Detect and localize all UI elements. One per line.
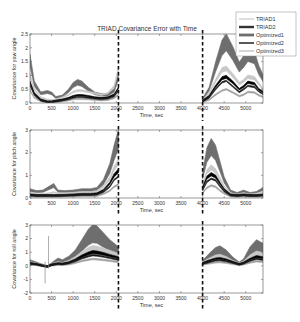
y-tick-label: 0 [25,100,28,106]
legend-label-triad1: TRIAD1 [256,16,276,22]
plot-area [30,225,263,284]
x-tick-label: 3500 [175,295,186,301]
y-tick-label: 0.5 [21,86,28,92]
x-tick-label: 2000 [111,295,122,301]
legend-label-optimized2: Optimized2 [256,40,284,46]
y-tick-label: 3 [25,127,28,133]
x-tick-label: 5000 [240,200,251,206]
x-tick-label: 2000 [111,105,122,111]
y-tick-label: 0 [25,263,28,269]
subplot-roll: 0500100015002000250030003500400045005000… [11,221,263,311]
x-tick-label: 500 [47,105,56,111]
y-tick-label: 2 [25,45,28,51]
x-axis-label: Time, sec [140,302,164,308]
x-tick-label: 1500 [89,295,100,301]
x-tick-label: 3000 [154,105,165,111]
x-tick-label: 1000 [68,105,79,111]
x-tick-label: 2500 [132,200,143,206]
y-tick-label: 1.5 [21,58,28,64]
x-tick-label: 3000 [154,295,165,301]
x-axis-label: Time, sec [140,207,164,213]
y-axis-label: Covariance for roll angle [11,229,17,289]
x-tick-label: 3500 [175,105,186,111]
y-tick-label: 1 [25,249,28,255]
y-tick-label: 2.5 [21,31,28,37]
x-tick-label: 0 [29,295,32,301]
y-tick-label: 2 [25,235,28,241]
x-tick-label: 500 [47,295,56,301]
figure: TRIAD Covariance Error with Time 0500100… [0,0,300,322]
series-band-optimized3 [203,89,263,103]
x-tick-label: 5000 [240,295,251,301]
x-tick-label: 4500 [219,295,230,301]
x-tick-label: 1000 [68,295,79,301]
y-tick-label: -2 [24,290,29,296]
plot-area [30,129,263,197]
x-tick-label: 3000 [154,200,165,206]
legend: TRIAD1TRIAD2Optimized1Optimized2Optimize… [236,12,296,56]
x-tick-label: 3500 [175,200,186,206]
x-tick-label: 500 [47,200,56,206]
x-tick-label: 2500 [132,105,143,111]
x-tick-label: 2000 [111,200,122,206]
chart-title: TRIAD Covariance Error with Time [97,25,197,32]
y-tick-label: 1 [25,72,28,78]
y-tick-label: 0 [25,195,28,201]
x-tick-label: 5000 [240,105,251,111]
y-tick-label: -1 [24,276,29,282]
y-tick-label: 3 [25,222,28,228]
y-tick-label: 1 [25,172,28,178]
x-tick-label: 4500 [219,105,230,111]
plot-area [30,34,263,103]
x-axis-label: Time, sec [140,112,164,118]
legend-label-triad2: TRIAD2 [256,24,276,30]
legend-label-optimized1: Optimized1 [256,32,284,38]
x-tick-label: 1000 [68,200,79,206]
y-axis-label: Covariance for yaw angle [11,37,17,99]
x-tick-label: 2500 [132,295,143,301]
subplot-yaw: 0500100015002000250030003500400045005000… [11,30,263,121]
x-tick-label: 1500 [89,105,100,111]
y-axis-label: Covariance for pitch angle [11,132,17,196]
x-tick-label: 1500 [89,200,100,206]
legend-label-optimized3: Optimized3 [256,48,284,54]
y-tick-label: 2 [25,149,28,155]
subplot-pitch: 0500100015002000250030003500400045005000… [11,126,263,216]
x-tick-label: 0 [29,200,32,206]
x-tick-label: 4500 [219,200,230,206]
x-tick-label: 0 [29,105,32,111]
